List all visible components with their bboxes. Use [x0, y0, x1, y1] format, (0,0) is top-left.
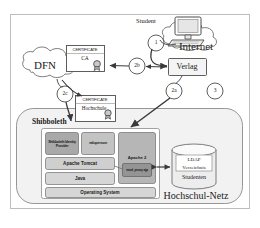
ldap-title-line1: LDAP: [187, 157, 200, 162]
stack-label-apache2: Apache 2: [128, 156, 147, 160]
diagram-canvas: Student Internet DFN Verlag CERTIFICATE …: [0, 0, 260, 228]
arrow-step2b-to-ca: [110, 66, 129, 67]
shibboleth-server-label: Shibboleth: [32, 118, 67, 126]
ldap-caption: Studenten: [182, 174, 206, 180]
stack-label-java: Java: [75, 176, 85, 181]
arrow-verlag-to-step2b: [146, 67, 167, 68]
step-label-1: 1: [155, 40, 158, 46]
stack-label-eduperson: eduperson: [89, 142, 107, 146]
certificate-ca-header: CERTIFICATE: [73, 47, 98, 51]
certificate-seal-icon-ca: [94, 61, 101, 71]
certificate-ca-subject: CA: [81, 56, 89, 62]
hochschul-netz-label: Hochschul-Netz: [164, 191, 229, 201]
step-label-3: 3: [214, 88, 217, 94]
certificate-hochschule-header: CERTIFICATE: [83, 97, 108, 101]
step-label-2c: 2c: [62, 91, 67, 97]
certificate-hochschule-subject: Hochschule: [82, 106, 107, 111]
step-label-2a: 2a: [171, 88, 176, 94]
stack-label-idp: Shibboleth Identity Provider: [46, 139, 78, 148]
stack-label-operating-system: Operating System: [80, 190, 119, 195]
student-label: Student: [136, 18, 156, 25]
ldap-title-line2: Verzeichnis: [182, 164, 205, 169]
internet-label: Internet: [179, 41, 213, 52]
stack-label-tomcat: Apache Tomcat: [63, 161, 97, 166]
step-label-2b: 2b: [134, 63, 140, 69]
dfn-label: DFN: [34, 60, 56, 71]
verlag-label: Verlag: [177, 63, 198, 71]
stack-label-mod-proxy: mod_proxy ajp: [124, 168, 151, 172]
